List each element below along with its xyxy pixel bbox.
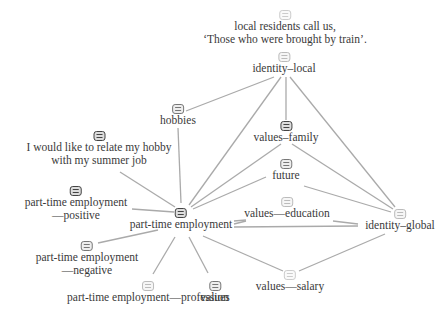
node-label-line: values–family <box>253 131 318 144</box>
node-label-line: I would like to relate my hobby <box>27 141 172 154</box>
node-label: values—salary <box>256 280 324 293</box>
node-label: identity–local <box>252 62 315 75</box>
node-label-line: ‘Those who were brought by train’. <box>203 33 367 46</box>
edge-part-time-employment-pte-profession <box>153 237 175 274</box>
node-label: local residents call us,‘Those who were … <box>203 20 367 46</box>
node-label: future <box>272 169 299 182</box>
node-label-line: with my summer job <box>27 154 172 167</box>
node-label: part-time employment <box>130 218 233 231</box>
document-icon[interactable] <box>280 159 292 169</box>
node-label-line: values—salary <box>256 280 324 293</box>
node-identity-local[interactable]: identity–local <box>252 52 315 75</box>
node-label-line: local residents call us, <box>203 20 367 33</box>
node-label-line: part-time employment <box>25 196 128 209</box>
node-label-line: identity–global <box>365 219 435 232</box>
edge-part-time-employment-values-salary <box>203 236 283 271</box>
document-icon[interactable] <box>209 281 221 291</box>
node-label-line: part-time employment <box>130 218 233 231</box>
edge-values-salary-identity-global <box>299 234 385 271</box>
node-label-line: part-time employment <box>36 251 139 264</box>
node-label-line: values—education <box>244 207 330 220</box>
edge-part-time-employment-identity-global <box>234 226 358 227</box>
node-hobbies[interactable]: hobbies <box>160 104 196 127</box>
node-values-education[interactable]: values—education <box>244 197 330 220</box>
node-pte-negative[interactable]: part-time employment—negative <box>36 241 139 277</box>
document-icon[interactable] <box>284 270 296 280</box>
document-icon[interactable] <box>279 10 291 20</box>
edge-hobby-summer-job-part-time-employment <box>120 172 175 207</box>
node-label: values–family <box>253 131 318 144</box>
node-values[interactable]: values <box>200 281 229 304</box>
document-icon[interactable] <box>142 281 154 291</box>
node-label-line: —negative <box>36 264 139 277</box>
document-icon[interactable] <box>281 197 293 207</box>
node-label: part-time employment—negative <box>36 251 139 277</box>
node-label-line: hobbies <box>160 114 196 127</box>
node-label: I would like to relate my hobbywith my s… <box>27 141 172 167</box>
node-label-line: —positive <box>25 209 128 222</box>
edge-part-time-employment-values <box>189 237 208 273</box>
node-quote-train[interactable]: local residents call us,‘Those who were … <box>203 10 367 46</box>
document-icon[interactable] <box>70 186 82 196</box>
edge-values-education-identity-global <box>333 221 358 224</box>
document-icon[interactable] <box>280 121 292 131</box>
document-icon[interactable] <box>172 104 184 114</box>
node-label: hobbies <box>160 114 196 127</box>
node-identity-global[interactable]: identity–global <box>365 209 435 232</box>
document-icon[interactable] <box>175 208 187 218</box>
document-icon[interactable] <box>278 52 290 62</box>
node-part-time-employment[interactable]: part-time employment <box>130 208 233 231</box>
document-icon[interactable] <box>93 131 105 141</box>
node-label: values—education <box>244 207 330 220</box>
node-label: part-time employment—positive <box>25 196 128 222</box>
document-icon[interactable] <box>81 241 93 251</box>
node-pte-positive[interactable]: part-time employment—positive <box>25 186 128 222</box>
node-label-line: future <box>272 169 299 182</box>
node-values-salary[interactable]: values—salary <box>256 270 324 293</box>
node-label: identity–global <box>365 219 435 232</box>
node-future[interactable]: future <box>272 159 299 182</box>
node-hobby-summer-job[interactable]: I would like to relate my hobbywith my s… <box>27 131 172 167</box>
node-values-family[interactable]: values–family <box>253 121 318 144</box>
document-icon[interactable] <box>394 209 406 219</box>
edge-hobbies-part-time-employment <box>178 128 181 203</box>
node-label-line: values <box>200 291 229 304</box>
node-label: values <box>200 291 229 304</box>
node-label-line: identity–local <box>252 62 315 75</box>
